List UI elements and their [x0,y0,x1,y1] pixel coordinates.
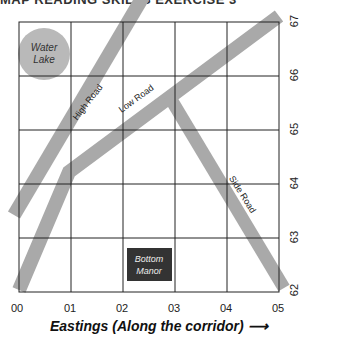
x-tick: 03 [168,302,180,314]
x-tick: 04 [220,302,232,314]
y-tick: 64 [288,177,300,189]
lake-label-2: Lake [33,54,55,65]
bottom-manor [127,248,172,281]
x-tick: 05 [272,302,284,314]
y-tick: 66 [288,69,300,81]
x-tick: 01 [64,302,76,314]
lake-label-1: Water [31,42,58,53]
manor-label-2: Manor [136,266,163,276]
y-tick: 62 [288,284,300,296]
y-tick: 67 [288,15,300,27]
x-axis-title: Eastings (Along the corridor) ⟶ [50,318,268,334]
y-tick: 65 [288,123,300,135]
x-tick: 00 [11,302,23,314]
x-tick: 02 [116,302,128,314]
manor-label-1: Bottom [135,254,164,264]
y-tick: 63 [288,231,300,243]
